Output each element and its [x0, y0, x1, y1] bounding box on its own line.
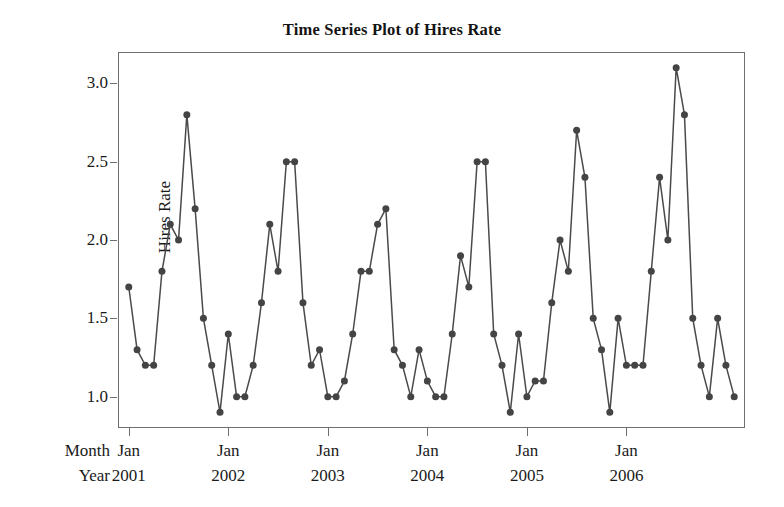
data-point	[714, 315, 721, 322]
data-point	[623, 362, 630, 369]
data-point	[532, 378, 539, 385]
x-axis-tick-mark	[626, 428, 627, 436]
data-point	[482, 158, 489, 165]
data-point	[200, 315, 207, 322]
data-point	[474, 158, 481, 165]
data-point	[366, 268, 373, 275]
data-point	[648, 268, 655, 275]
data-point	[225, 331, 232, 338]
data-point	[639, 362, 646, 369]
y-axis-tick-label: 2.5	[52, 152, 108, 172]
data-point	[333, 393, 340, 400]
x-axis-month-label: Jan	[273, 438, 383, 463]
x-axis-year-label: 2002	[173, 463, 283, 488]
data-point	[673, 64, 680, 71]
y-axis-tick-mark	[110, 318, 117, 319]
y-axis-tick-mark	[110, 83, 117, 84]
x-axis-tick-label-group: Jan2003	[273, 438, 383, 488]
data-point	[424, 378, 431, 385]
data-point	[399, 362, 406, 369]
data-point	[217, 409, 224, 416]
data-point	[581, 174, 588, 181]
x-axis-row-labels: Month Year	[18, 438, 110, 488]
data-point	[233, 393, 240, 400]
data-point	[598, 346, 605, 353]
data-point	[722, 362, 729, 369]
data-point	[416, 346, 423, 353]
data-point	[465, 284, 472, 291]
x-axis-tick-mark	[228, 428, 229, 436]
x-axis-tick-mark	[427, 428, 428, 436]
data-point	[449, 331, 456, 338]
data-point	[150, 362, 157, 369]
x-axis-row-label-year: Year	[18, 463, 110, 488]
data-point	[241, 393, 248, 400]
data-point	[158, 268, 165, 275]
x-axis-month-label: Jan	[372, 438, 482, 463]
data-point	[432, 393, 439, 400]
data-point	[656, 174, 663, 181]
y-axis-tick-label: 2.0	[52, 230, 108, 250]
data-point	[689, 315, 696, 322]
data-point	[341, 378, 348, 385]
data-point	[499, 362, 506, 369]
data-point	[557, 237, 564, 244]
data-point	[731, 393, 738, 400]
data-point	[308, 362, 315, 369]
data-point	[407, 393, 414, 400]
data-point	[299, 299, 306, 306]
data-point	[183, 111, 190, 118]
x-axis-tick-mark	[328, 428, 329, 436]
x-axis-month-label: Jan	[571, 438, 681, 463]
data-point	[167, 221, 174, 228]
data-point	[664, 237, 671, 244]
data-point	[698, 362, 705, 369]
data-point	[258, 299, 265, 306]
data-point	[266, 221, 273, 228]
data-point	[590, 315, 597, 322]
data-point	[523, 393, 530, 400]
figure-canvas: Time Series Plot of Hires Rate Hires Rat…	[0, 0, 784, 507]
y-axis-tick-label: 1.0	[52, 387, 108, 407]
x-axis-tick-label-group: Jan2006	[571, 438, 681, 488]
x-axis-tick-label-group: Jan2005	[472, 438, 582, 488]
data-point	[125, 284, 132, 291]
y-axis-tick-mark	[110, 162, 117, 163]
y-axis-tick-mark	[110, 240, 117, 241]
data-point	[681, 111, 688, 118]
data-point	[540, 378, 547, 385]
data-point	[573, 127, 580, 134]
x-axis-year-label: 2003	[273, 463, 383, 488]
data-point	[507, 409, 514, 416]
data-point	[275, 268, 282, 275]
data-point	[374, 221, 381, 228]
data-point	[631, 362, 638, 369]
x-axis-year-label: 2006	[571, 463, 681, 488]
series-line	[129, 68, 734, 413]
time-series-line	[118, 52, 745, 428]
data-point	[565, 268, 572, 275]
data-point	[382, 205, 389, 212]
page-title: Time Series Plot of Hires Rate	[0, 20, 784, 40]
x-axis-row-label-month: Month	[18, 438, 110, 463]
x-axis-year-label: 2004	[372, 463, 482, 488]
data-point	[142, 362, 149, 369]
data-point	[175, 237, 182, 244]
data-point	[515, 331, 522, 338]
x-axis-tick-mark	[527, 428, 528, 436]
data-point	[192, 205, 199, 212]
x-axis-month-label: Jan	[173, 438, 283, 463]
data-point	[457, 252, 464, 259]
data-point	[615, 315, 622, 322]
data-point	[134, 346, 141, 353]
data-point	[250, 362, 257, 369]
y-axis-tick-label: 1.5	[52, 308, 108, 328]
y-axis-tick-mark	[110, 397, 117, 398]
data-point	[358, 268, 365, 275]
data-point	[291, 158, 298, 165]
data-point	[324, 393, 331, 400]
data-point	[283, 158, 290, 165]
x-axis-tick-mark	[129, 428, 130, 436]
data-point	[490, 331, 497, 338]
data-point	[440, 393, 447, 400]
